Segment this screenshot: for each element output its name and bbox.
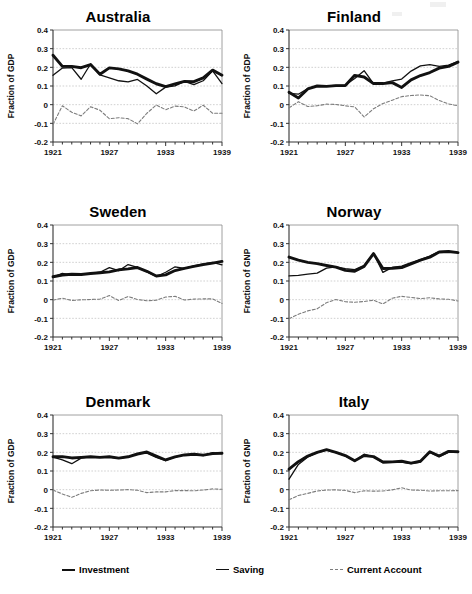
panel-italy: Italy 0.40.30.20.10-0.1-0.21921192719331… <box>236 385 472 556</box>
tick-label-y: 0.1 <box>37 467 49 476</box>
tick-label-y: 0.2 <box>273 449 285 458</box>
tick-label-y: 0.2 <box>273 64 285 73</box>
tick-label-x: 1927 <box>336 533 354 542</box>
tick-label-x: 1939 <box>213 533 231 542</box>
axis-title-y: Fraction of GNP <box>242 438 252 503</box>
tick-label-y: -0.2 <box>34 138 48 147</box>
legend-swatch-saving-icon <box>216 569 229 570</box>
tick-label-y: -0.2 <box>270 523 284 532</box>
axis-title-y: Fraction of GDP <box>6 53 16 118</box>
legend-item-investment: Investment <box>62 564 129 575</box>
tick-label-x: 1933 <box>393 343 411 352</box>
legend-swatch-investment-icon <box>62 569 75 571</box>
tick-label-y: 0.4 <box>37 26 49 35</box>
tick-label-y: 0.1 <box>273 82 285 91</box>
plot-sweden: 0.40.30.20.10-0.1-0.21921192719331939Fra… <box>0 195 236 385</box>
tick-label-y: -0.1 <box>270 120 284 129</box>
plot-italy: 0.40.30.20.10-0.1-0.21921192719331939Fra… <box>236 385 472 556</box>
tick-label-x: 1939 <box>449 533 467 542</box>
tick-label-y: 0.2 <box>37 259 49 268</box>
panel-grid: Australia 0.40.30.20.10-0.1-0.2192119271… <box>0 0 472 556</box>
tick-label-y: 0.3 <box>37 240 49 249</box>
tick-label-y: 0.2 <box>37 64 49 73</box>
tick-label-y: 0.3 <box>37 45 49 54</box>
tick-label-x: 1939 <box>213 343 231 352</box>
axis-title-y: Fraction of GDP <box>6 438 16 503</box>
tick-label-x: 1927 <box>100 533 118 542</box>
tick-label-y: -0.1 <box>270 315 284 324</box>
axis-title-y: Fraction of GDP <box>6 248 16 313</box>
legend-label-current-account: Current Account <box>347 564 422 575</box>
tick-label-y: -0.2 <box>34 333 48 342</box>
tick-label-x: 1939 <box>449 343 467 352</box>
tick-label-x: 1921 <box>280 343 298 352</box>
chart-svg: 0.40.30.20.10-0.1-0.21921192719331939Fra… <box>0 195 236 385</box>
tick-label-y: 0.3 <box>37 430 49 439</box>
tick-label-y: 0.3 <box>273 430 285 439</box>
tick-label-y: -0.1 <box>34 315 48 324</box>
legend-item-saving: Saving <box>216 564 264 575</box>
panel-norway: Norway 0.40.30.20.10-0.1-0.2192119271933… <box>236 195 472 385</box>
legend-item-current-account: Current Account <box>330 564 422 575</box>
tick-label-y: 0 <box>280 101 285 110</box>
tick-label-x: 1921 <box>44 343 62 352</box>
chart-svg: 0.40.30.20.10-0.1-0.21921192719331939Fra… <box>236 0 472 195</box>
tick-label-x: 1927 <box>100 343 118 352</box>
tick-label-x: 1939 <box>449 148 467 157</box>
chart-svg: 0.40.30.20.10-0.1-0.21921192719331939Fra… <box>0 385 236 556</box>
tick-label-y: -0.1 <box>270 505 284 514</box>
figure-legend: Investment Saving Current Account <box>0 556 472 594</box>
axis-title-y: Fraction of GDP <box>242 53 252 118</box>
legend-label-saving: Saving <box>233 564 264 575</box>
tick-label-y: -0.2 <box>270 333 284 342</box>
axis-title-y: Fraction of GNP <box>242 248 252 313</box>
tick-label-x: 1927 <box>336 343 354 352</box>
tick-label-y: 0.1 <box>37 82 49 91</box>
tick-label-y: 0.3 <box>273 240 285 249</box>
tick-label-x: 1933 <box>157 533 175 542</box>
tick-label-y: 0 <box>44 101 49 110</box>
tick-label-y: 0 <box>280 486 285 495</box>
chart-svg: 0.40.30.20.10-0.1-0.21921192719331939Fra… <box>236 385 472 556</box>
tick-label-y: -0.2 <box>34 523 48 532</box>
tick-label-y: 0.2 <box>37 449 49 458</box>
tick-label-y: 0 <box>44 296 49 305</box>
tick-label-y: 0.2 <box>273 259 285 268</box>
plot-norway: 0.40.30.20.10-0.1-0.21921192719331939Fra… <box>236 195 472 385</box>
tick-label-x: 1933 <box>157 343 175 352</box>
panel-australia: Australia 0.40.30.20.10-0.1-0.2192119271… <box>0 0 236 195</box>
panel-finland: Finland 0.40.30.20.10-0.1-0.219211927193… <box>236 0 472 195</box>
tick-label-y: 0.4 <box>273 221 285 230</box>
legend-label-investment: Investment <box>79 564 129 575</box>
tick-label-y: 0.4 <box>273 411 285 420</box>
tick-label-x: 1927 <box>336 148 354 157</box>
tick-label-y: 0 <box>280 296 285 305</box>
tick-label-x: 1921 <box>44 148 62 157</box>
tick-label-x: 1921 <box>44 533 62 542</box>
tick-label-x: 1927 <box>100 148 118 157</box>
plot-australia: 0.40.30.20.10-0.1-0.21921192719331939Fra… <box>0 0 236 195</box>
tick-label-x: 1939 <box>213 148 231 157</box>
tick-label-x: 1921 <box>280 148 298 157</box>
plot-denmark: 0.40.30.20.10-0.1-0.21921192719331939Fra… <box>0 385 236 556</box>
tick-label-y: -0.1 <box>34 505 48 514</box>
tick-label-y: 0.1 <box>37 277 49 286</box>
tick-label-y: 0.1 <box>273 467 285 476</box>
tick-label-y: 0.4 <box>37 411 49 420</box>
figure-sheet: Australia 0.40.30.20.10-0.1-0.2192119271… <box>0 0 472 594</box>
tick-label-y: 0.4 <box>37 221 49 230</box>
panel-denmark: Denmark 0.40.30.20.10-0.1-0.219211927193… <box>0 385 236 556</box>
tick-label-y: 0.4 <box>273 26 285 35</box>
tick-label-y: -0.2 <box>270 138 284 147</box>
legend-swatch-current-account-icon <box>330 569 343 570</box>
tick-label-x: 1921 <box>280 533 298 542</box>
panel-sweden: Sweden 0.40.30.20.10-0.1-0.2192119271933… <box>0 195 236 385</box>
chart-svg: 0.40.30.20.10-0.1-0.21921192719331939Fra… <box>236 195 472 385</box>
tick-label-x: 1933 <box>393 533 411 542</box>
tick-label-x: 1933 <box>393 148 411 157</box>
plot-finland: 0.40.30.20.10-0.1-0.21921192719331939Fra… <box>236 0 472 195</box>
tick-label-y: -0.1 <box>34 120 48 129</box>
chart-svg: 0.40.30.20.10-0.1-0.21921192719331939Fra… <box>0 0 236 195</box>
tick-label-x: 1933 <box>157 148 175 157</box>
tick-label-y: 0.3 <box>273 45 285 54</box>
